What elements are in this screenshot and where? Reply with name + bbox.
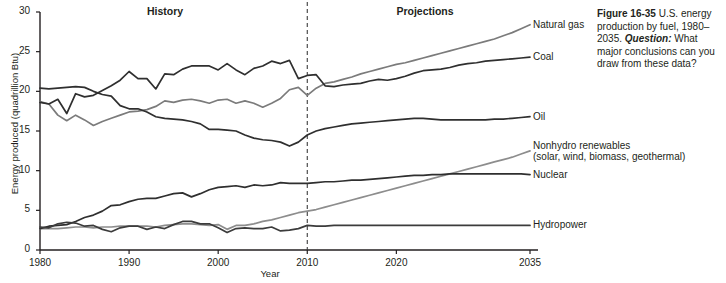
x-tick-label: 1980 <box>18 257 62 268</box>
y-tick-label: 30 <box>4 5 30 16</box>
x-tick-label: 2035 <box>508 257 552 268</box>
series-label-line: Oil <box>533 111 545 123</box>
y-tick-label: 20 <box>4 84 30 95</box>
plot-svg <box>0 0 560 283</box>
y-tick-label: 10 <box>4 164 30 175</box>
series-line-natural-gas <box>40 25 530 126</box>
x-tick-label: 2000 <box>196 257 240 268</box>
series-line-nonhydro-renewables <box>40 151 530 230</box>
chart-area: Energy produced (quadrillion Btu) Year H… <box>0 0 560 283</box>
history-annotation: History <box>125 5 205 17</box>
figure-caption: Figure 16-35 U.S. energy production by f… <box>597 8 723 71</box>
series-label-line: Coal <box>533 51 554 63</box>
series-label-hydropower: Hydropower <box>533 219 587 231</box>
series-line-oil <box>40 87 530 147</box>
x-tick-label: 2020 <box>374 257 418 268</box>
y-tick-label: 0 <box>4 243 30 254</box>
y-tick-label: 5 <box>4 203 30 214</box>
x-tick-label: 1990 <box>107 257 151 268</box>
series-label-line: Nuclear <box>533 169 567 181</box>
series-label-line: Hydropower <box>533 219 587 231</box>
series-label-nuclear: Nuclear <box>533 169 567 181</box>
series-label-line: Natural gas <box>533 19 584 31</box>
series-line-coal <box>40 57 530 113</box>
figure-number: Figure 16-35 <box>597 8 656 19</box>
series-line-nuclear <box>40 174 530 229</box>
series-label-coal: Coal <box>533 51 554 63</box>
series-label-nonhydro-renewables: Nonhydro renewables(solar, wind, biomass… <box>533 140 685 163</box>
x-tick-label: 2010 <box>285 257 329 268</box>
series-label-oil: Oil <box>533 111 545 123</box>
y-tick-label: 15 <box>4 124 30 135</box>
series-label-natural-gas: Natural gas <box>533 19 584 31</box>
figure-root: Energy produced (quadrillion Btu) Year H… <box>0 0 726 283</box>
series-label-line: (solar, wind, biomass, geothermal) <box>533 151 685 163</box>
y-tick-label: 25 <box>4 45 30 56</box>
series-label-line: Nonhydro renewables <box>533 140 685 152</box>
question-label: Question: <box>625 33 672 44</box>
projections-annotation: Projections <box>380 5 470 17</box>
x-axis-label: Year <box>230 268 310 279</box>
